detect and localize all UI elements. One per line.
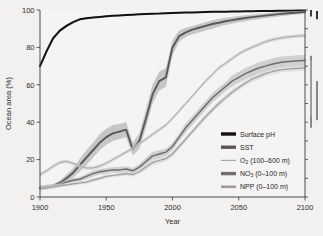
legend-label: SST bbox=[240, 144, 254, 151]
x-tick-label: 1900 bbox=[32, 203, 49, 212]
x-tick-label: 1950 bbox=[98, 203, 115, 212]
y-axis-title: Ocean area (%) bbox=[4, 77, 13, 130]
legend-label: NPP (0–100 m) bbox=[240, 183, 288, 191]
error-bars-group bbox=[311, 10, 317, 128]
y-tick-label: 0 bbox=[30, 193, 34, 202]
x-tick-label: 2000 bbox=[164, 203, 181, 212]
y-tick-label: 60 bbox=[26, 81, 34, 90]
y-tick-label: 40 bbox=[26, 118, 34, 127]
legend-label: NO3 (0–100 m) bbox=[240, 170, 287, 178]
x-tick-label: 2100 bbox=[297, 203, 314, 212]
x-axis-title: Year bbox=[165, 217, 181, 226]
y-tick-label: 20 bbox=[26, 155, 34, 164]
y-tick-label: 80 bbox=[26, 43, 34, 52]
chart-svg: 02040608010019001950200020502100YearOcea… bbox=[0, 0, 323, 236]
x-tick-label: 2050 bbox=[230, 203, 247, 212]
legend-label: O2 (100–600 m) bbox=[240, 157, 290, 165]
ocean-area-chart-figure: 02040608010019001950200020502100YearOcea… bbox=[0, 0, 323, 236]
y-tick-label: 100 bbox=[22, 6, 35, 15]
legend-label: Surface pH bbox=[240, 131, 275, 139]
